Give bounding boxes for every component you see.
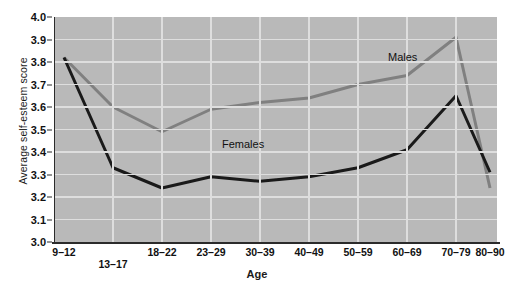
y-axis-tick-mark [47,197,52,198]
gridline-vertical [259,17,261,242]
y-axis-tick-label: 3.4 [16,146,46,158]
x-axis-tick-label: 23–29 [196,246,225,258]
y-axis-tick-mark [47,174,52,175]
y-axis-tick-mark [47,242,52,243]
plot-panel [55,17,497,242]
gridline-horizontal [55,84,497,86]
x-axis-tick-label: 80–90 [475,246,504,258]
y-axis-tick-mark [47,62,52,63]
gridline-horizontal [55,39,497,41]
y-axis-line [54,17,55,243]
y-axis-tick-label: 3.8 [16,56,46,68]
y-axis-tick-label: 3.7 [16,79,46,91]
x-axis-line [52,242,500,244]
gridline-horizontal [55,196,497,198]
x-axis-tick-label: 70–79 [441,246,470,258]
y-axis-tick-mark [47,107,52,108]
y-axis-tick-mark [47,84,52,85]
x-axis-tick-label: 60–69 [392,246,421,258]
y-axis-tick-label: 3.9 [16,34,46,46]
y-axis-tick-label: 3.6 [16,101,46,113]
x-axis-tick-label: 18–22 [147,246,176,258]
y-axis-tick-label: 3.5 [16,124,46,136]
gridline-vertical [308,17,310,242]
y-axis-tick-mark [47,152,52,153]
y-axis-tick-mark [47,39,52,40]
gridline-horizontal [55,106,497,108]
gridline-horizontal [55,61,497,63]
y-axis-tick-label: 3.0 [16,236,46,248]
y-axis-tick-label: 3.1 [16,214,46,226]
chart-root: Average self-esteem score 3.03.13.23.33.… [0,0,514,292]
gridline-horizontal [55,219,497,221]
gridline-vertical [112,17,114,242]
y-axis-tick-mark [47,129,52,130]
y-axis-tick-label: 3.3 [16,169,46,181]
x-axis-tick-label: 30–39 [245,246,274,258]
series-annotation-females: Females [222,138,264,150]
gridline-vertical [455,17,457,242]
x-axis-tick-label: 40–49 [294,246,323,258]
y-axis-tick-labels: 3.03.13.23.33.43.53.63.73.83.94.0 [14,0,46,292]
series-line-females [64,58,490,189]
y-axis-tick-label: 4.0 [16,11,46,23]
y-axis-tick-label: 3.2 [16,191,46,203]
gridline-horizontal [55,151,497,153]
x-axis-tick-label: 9–12 [52,246,75,258]
gridline-vertical [357,17,359,242]
x-axis-tick-label: 50–59 [343,246,372,258]
series-line-males [64,37,490,188]
gridline-horizontal [55,129,497,131]
gridline-vertical [161,17,163,242]
gridline-vertical [210,17,212,242]
y-axis-tick-mark [47,17,52,18]
x-axis-title: Age [0,268,514,280]
gridline-horizontal [55,174,497,176]
series-annotation-males: Males [388,51,417,63]
y-axis-tick-mark [47,219,52,220]
